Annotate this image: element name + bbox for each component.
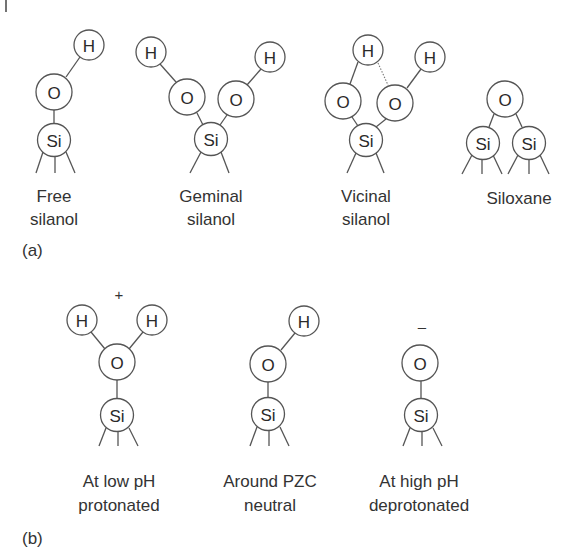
structure-label: Siloxane (486, 189, 551, 208)
structure-label: Around PZC (223, 472, 317, 491)
panel-b-label: (b) (22, 529, 43, 548)
hydrogen-atom: H (67, 305, 97, 335)
svg-text:Si: Si (109, 407, 124, 426)
oxygen-atom: O (325, 83, 361, 119)
hydrogen-atom: H (74, 30, 104, 60)
svg-text:O: O (413, 355, 426, 374)
silicon-atom: Si (252, 398, 285, 431)
oxygen-atom: O (487, 81, 523, 117)
oxygen-atom: O (402, 345, 438, 381)
structure-label: silanol (187, 210, 235, 229)
negative-charge: – (418, 318, 427, 335)
silanol-diagram: H O Si Free silanol H H O O Si Geminal s… (0, 0, 585, 559)
siloxane-structure: O Si Si Siloxane (462, 81, 552, 208)
structure-label: neutral (244, 496, 296, 515)
hydrogen-atom: H (136, 37, 166, 67)
svg-text:Si: Si (475, 135, 490, 154)
neutral-structure: H O Si Around PZC neutral (223, 306, 319, 515)
svg-text:H: H (424, 49, 436, 68)
svg-text:H: H (146, 312, 158, 331)
silicon-atom: Si (467, 127, 500, 160)
silicon-atom: Si (350, 124, 383, 157)
structure-label: Geminal (179, 187, 242, 206)
structure-label: deprotonated (369, 496, 469, 515)
hydrogen-atom: H (137, 305, 167, 335)
svg-text:O: O (261, 356, 274, 375)
oxygen-atom: O (169, 79, 205, 115)
structure-label: At low pH (83, 472, 156, 491)
svg-text:O: O (180, 89, 193, 108)
svg-text:H: H (264, 49, 276, 68)
oxygen-atom: O (218, 81, 254, 117)
deprotonated-structure: – O Si At high pH deprotonated (369, 318, 469, 515)
silicon-atom: Si (101, 399, 134, 432)
structure-label: Free (37, 187, 72, 206)
geminal-silanol-structure: H H O O Si Geminal silanol (136, 37, 285, 229)
svg-text:H: H (145, 44, 157, 63)
svg-text:H: H (76, 312, 88, 331)
protonated-structure: + H H O Si At low pH protonated (67, 286, 167, 515)
hydrogen-atom: H (353, 35, 383, 65)
vicinal-silanol-structure: H H O O Si Vicinal silanol (325, 35, 445, 229)
oxygen-atom: O (36, 74, 72, 110)
silicon-atom: Si (513, 127, 546, 160)
svg-text:Si: Si (358, 132, 373, 151)
svg-text:O: O (498, 91, 511, 110)
structure-label: protonated (78, 496, 159, 515)
svg-text:Si: Si (203, 131, 218, 150)
oxygen-atom: O (377, 85, 413, 121)
svg-text:O: O (388, 95, 401, 114)
silicon-atom: Si (195, 123, 228, 156)
structure-label: Vicinal (341, 187, 391, 206)
svg-text:O: O (336, 93, 349, 112)
panel-a-label: (a) (22, 241, 43, 260)
svg-text:O: O (47, 84, 60, 103)
svg-text:H: H (298, 313, 310, 332)
oxygen-atom: O (99, 344, 135, 380)
silicon-atom: Si (38, 124, 71, 157)
positive-charge: + (115, 286, 124, 303)
hydrogen-atom: H (415, 42, 445, 72)
structure-label: silanol (342, 210, 390, 229)
hydrogen-atom: H (255, 42, 285, 72)
structure-label: At high pH (379, 472, 458, 491)
svg-text:H: H (83, 37, 95, 56)
svg-text:Si: Si (46, 132, 61, 151)
free-silanol-structure: H O Si Free silanol (30, 30, 104, 229)
structure-label: silanol (30, 210, 78, 229)
svg-text:Si: Si (413, 407, 428, 426)
svg-text:O: O (110, 354, 123, 373)
svg-text:Si: Si (521, 135, 536, 154)
silicon-atom: Si (405, 399, 438, 432)
svg-text:Si: Si (260, 406, 275, 425)
svg-text:H: H (362, 42, 374, 61)
oxygen-atom: O (250, 346, 286, 382)
hydrogen-atom: H (289, 306, 319, 336)
svg-text:O: O (229, 91, 242, 110)
